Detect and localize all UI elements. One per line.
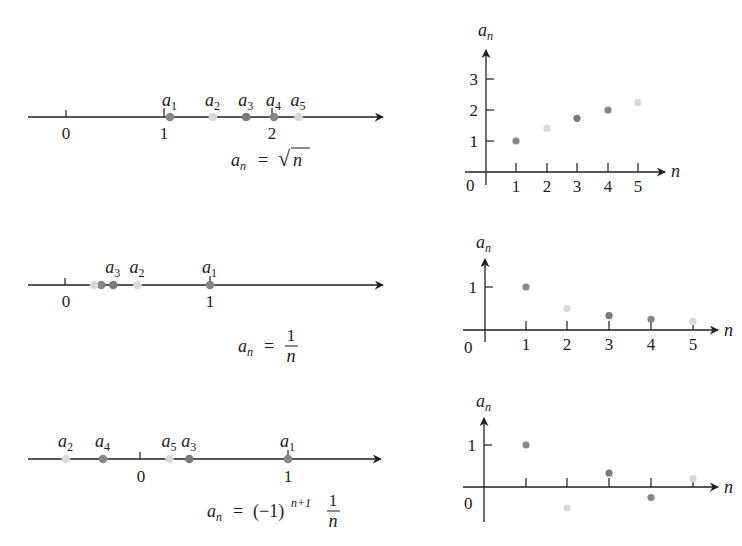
sequence-point	[185, 455, 194, 464]
tick-label: 1	[284, 467, 293, 486]
point-label: a4	[266, 90, 281, 113]
x-tick-label: 4	[647, 335, 656, 354]
y-tick-label: 3	[470, 70, 479, 89]
x-tick-label: 1	[512, 177, 521, 196]
svg-text:n: n	[293, 150, 302, 170]
x-tick-label: 2	[543, 177, 552, 196]
svg-text:n: n	[287, 346, 296, 366]
x-tick-label: 1	[522, 335, 531, 354]
y-tick-label: 2	[470, 101, 479, 120]
svg-text:=: =	[264, 336, 274, 356]
sequence-point	[270, 113, 279, 122]
svg-text:n+1: n+1	[291, 496, 311, 510]
formula-alternating: an = (−1) n+1 1 n	[207, 491, 340, 531]
svg-text:1: 1	[287, 326, 296, 345]
svg-text:1: 1	[329, 491, 338, 510]
data-point	[605, 469, 612, 476]
point-label: a2	[58, 431, 73, 454]
sequence-point	[133, 281, 142, 290]
point-label: a1	[202, 257, 217, 280]
sequence-point	[166, 113, 175, 122]
point-label: a5	[162, 431, 177, 454]
data-point	[563, 305, 570, 312]
data-point	[512, 137, 519, 144]
data-point	[543, 125, 550, 132]
point-label: a4	[95, 431, 110, 454]
data-point	[689, 318, 696, 325]
tick-label: 1	[160, 124, 169, 143]
y-axis-label: an	[476, 232, 491, 255]
number-line-sqrt: 0 1 2 a1a2a3a4a5	[28, 90, 383, 143]
sequence-point	[294, 113, 303, 122]
x-axis-label: n	[724, 477, 733, 497]
x-tick-label: 5	[689, 335, 698, 354]
sequence-point	[206, 281, 215, 290]
origin-label: 0	[466, 176, 475, 195]
number-line-alternating: 0 1 a1a2a3a4a5	[28, 431, 381, 486]
point-label: a3	[105, 257, 120, 280]
svg-text:an: an	[231, 150, 246, 173]
sequence-point	[62, 455, 71, 464]
sequence-point	[165, 455, 174, 464]
x-axis-label: n	[724, 320, 733, 340]
chart-alternating: an n 0 1	[463, 391, 733, 522]
y-tick-label: 1	[468, 436, 477, 455]
origin-label: 0	[464, 338, 473, 357]
sequence-point	[209, 113, 218, 122]
sequence-point	[284, 455, 293, 464]
point-label: a3	[181, 431, 196, 454]
x-tick-label: 5	[634, 177, 643, 196]
tick-label: 0	[62, 292, 71, 311]
point-label: a2	[130, 257, 145, 280]
data-point	[522, 283, 529, 290]
tick-label: 2	[268, 124, 277, 143]
chart-sqrt: an n 0 123 12345	[465, 20, 680, 196]
svg-text:an: an	[238, 336, 253, 359]
sequence-point	[99, 455, 108, 464]
svg-text:√: √	[278, 146, 291, 171]
data-point	[634, 99, 641, 106]
x-axis-label: n	[671, 161, 680, 181]
data-point	[605, 312, 612, 319]
y-tick-label: 1	[470, 132, 479, 151]
chart-reciprocal: an n 0 1 12345	[463, 232, 733, 357]
data-point	[522, 441, 529, 448]
tick-label: 0	[62, 124, 71, 143]
point-label: a1	[162, 90, 177, 113]
y-tick-label: 1	[469, 278, 478, 297]
data-point	[647, 316, 654, 323]
svg-text:(−1): (−1)	[253, 501, 284, 522]
svg-text:an: an	[207, 501, 222, 524]
point-label: a1	[280, 431, 295, 454]
svg-text:=: =	[258, 150, 268, 170]
y-axis-label: an	[476, 391, 491, 414]
tick-label: 1	[206, 292, 215, 311]
sequence-point	[242, 113, 251, 122]
x-tick-label: 4	[604, 177, 613, 196]
formula-sqrt: an = √ n	[231, 146, 310, 173]
x-tick-label: 3	[573, 177, 582, 196]
data-point	[647, 494, 654, 501]
y-axis-label: an	[478, 20, 493, 43]
formula-reciprocal: an = 1 n	[238, 326, 298, 366]
x-tick-label: 3	[605, 335, 614, 354]
data-point	[563, 504, 570, 511]
point-label: a5	[291, 90, 306, 113]
sequence-figure: 0 1 2 a1a2a3a4a5 an = √ n an n 0 123 123…	[0, 0, 742, 546]
tick-label: 0	[137, 467, 146, 486]
svg-text:=: =	[233, 501, 243, 521]
x-tick-label: 2	[563, 335, 572, 354]
point-label: a2	[205, 90, 220, 113]
data-point	[573, 115, 580, 122]
point-label: a3	[238, 90, 253, 113]
data-point	[604, 106, 611, 113]
data-point	[689, 475, 696, 482]
svg-text:n: n	[329, 511, 338, 531]
origin-label: 0	[464, 494, 473, 513]
sequence-point	[109, 281, 118, 290]
number-line-reciprocal: 0 1 a1a2a3	[28, 257, 383, 311]
sequence-point	[90, 281, 99, 290]
